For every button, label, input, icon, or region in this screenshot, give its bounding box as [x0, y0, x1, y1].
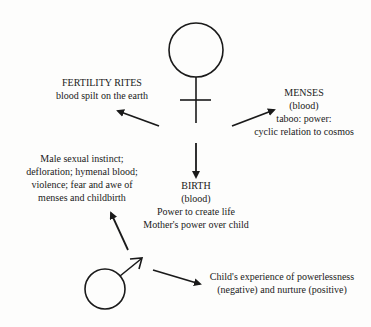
diagram-canvas: FERTILITY RITES blood spilt on the earth…: [0, 0, 371, 327]
female-symbol-icon: [169, 23, 223, 123]
child-line: Child's experience of powerlessness: [207, 270, 357, 283]
male-instinct-line: menses and childbirth: [22, 191, 142, 204]
fertility-title: FERTILITY RITES: [52, 76, 152, 89]
birth-title: BIRTH: [136, 179, 256, 192]
child-line: (negative) and nurture (positive): [207, 283, 357, 296]
arrow-to-male-instinct: [111, 213, 128, 250]
menses-title: MENSES: [249, 86, 359, 99]
birth-line: (blood): [136, 192, 256, 205]
birth-label: BIRTH (blood) Power to create life Mothe…: [136, 179, 256, 231]
menses-line: cyclic relation to cosmos: [249, 125, 359, 138]
fertility-rites-label: FERTILITY RITES blood spilt on the earth: [52, 76, 152, 102]
arrow-to-child: [153, 270, 200, 284]
male-instinct-label: Male sexual instinct; defloration; hymen…: [22, 152, 142, 204]
birth-line: Power to create life: [136, 205, 256, 218]
menses-line: taboo: power:: [249, 112, 359, 125]
male-instinct-line: Male sexual instinct;: [22, 152, 142, 165]
menses-line: (blood): [249, 99, 359, 112]
birth-line: Mother's power over child: [136, 218, 256, 231]
child-label: Child's experience of powerlessness (neg…: [207, 270, 357, 296]
fertility-line: blood spilt on the earth: [52, 89, 152, 102]
male-instinct-line: violence; fear and awe of: [22, 178, 142, 191]
menses-label: MENSES (blood) taboo: power: cyclic rela…: [249, 86, 359, 138]
male-instinct-line: defloration; hymenal blood;: [22, 165, 142, 178]
male-symbol-icon: [85, 258, 142, 309]
arrow-to-fertility: [118, 111, 159, 126]
